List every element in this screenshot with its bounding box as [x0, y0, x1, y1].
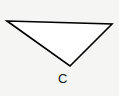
- geometry-figure-canvas: C: [0, 0, 119, 96]
- vertex-label-c: C: [58, 72, 67, 85]
- triangle-shape: [7, 21, 112, 66]
